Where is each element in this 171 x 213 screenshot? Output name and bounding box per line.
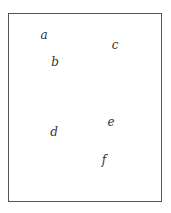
label-d: d	[50, 126, 58, 138]
diagram-frame	[8, 13, 162, 202]
label-b: b	[51, 56, 59, 68]
label-e: e	[107, 116, 114, 128]
label-f: f	[102, 154, 106, 166]
label-c: c	[112, 39, 119, 51]
label-a: a	[40, 29, 47, 41]
